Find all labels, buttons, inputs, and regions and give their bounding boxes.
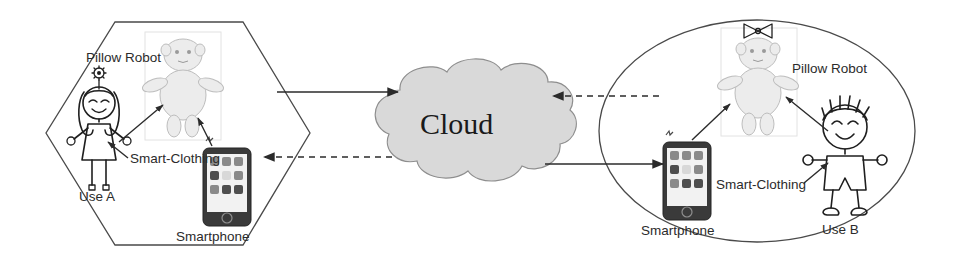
bow-icon <box>744 24 772 38</box>
flower-icon <box>92 66 106 80</box>
right-user-figure[interactable] <box>803 96 887 215</box>
diagram-canvas: Cloud <box>0 0 967 262</box>
left-pillow-robot[interactable] <box>141 32 225 140</box>
arrow-right-phone-to-robot <box>692 104 730 140</box>
right-clothing-label: Smart-Clothing <box>716 177 806 192</box>
right-user-label: Use B <box>822 222 859 237</box>
left-user-label: Use A <box>79 189 115 204</box>
arrow-left-phone-to-robot <box>198 118 212 146</box>
left-clothing-label: Smart-Clothing <box>130 151 220 166</box>
right-robot-label: Pillow Robot <box>792 61 867 76</box>
cloud-label: Cloud <box>420 107 493 140</box>
left-robot-label: Pillow Robot <box>86 50 161 65</box>
cloud-node[interactable]: Cloud <box>375 59 576 181</box>
right-phone-label: Smartphone <box>641 223 715 238</box>
right-pillow-robot[interactable] <box>716 24 800 136</box>
arrow-right-user-to-robot <box>786 97 828 131</box>
left-phone-label: Smartphone <box>176 229 250 244</box>
system-architecture-diagram: Cloud <box>0 0 967 262</box>
arrow-left-user-to-robot <box>119 105 163 142</box>
right-smartphone[interactable] <box>663 131 711 220</box>
